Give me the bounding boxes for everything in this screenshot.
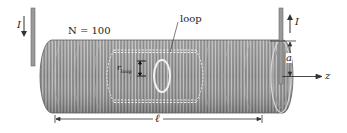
current-arrow-down-icon [21, 16, 27, 37]
radius-label: a [286, 53, 292, 63]
length-label: ℓ [155, 113, 160, 124]
loop-radius-label: rloop [117, 64, 132, 74]
left-lead-wire [31, 8, 35, 66]
loop-radius-subscript: loop [121, 68, 132, 74]
loop-label: loop [180, 14, 202, 24]
current-label-right: I [295, 17, 299, 27]
current-label-left: I [17, 20, 21, 30]
axis-label: z [325, 71, 330, 81]
current-arrow-up-icon [287, 14, 293, 33]
solenoid-diagram: I I N = 100 loop rloop a z ℓ [0, 0, 347, 133]
right-lead-wire [279, 8, 283, 84]
turns-label: N = 100 [68, 26, 111, 36]
